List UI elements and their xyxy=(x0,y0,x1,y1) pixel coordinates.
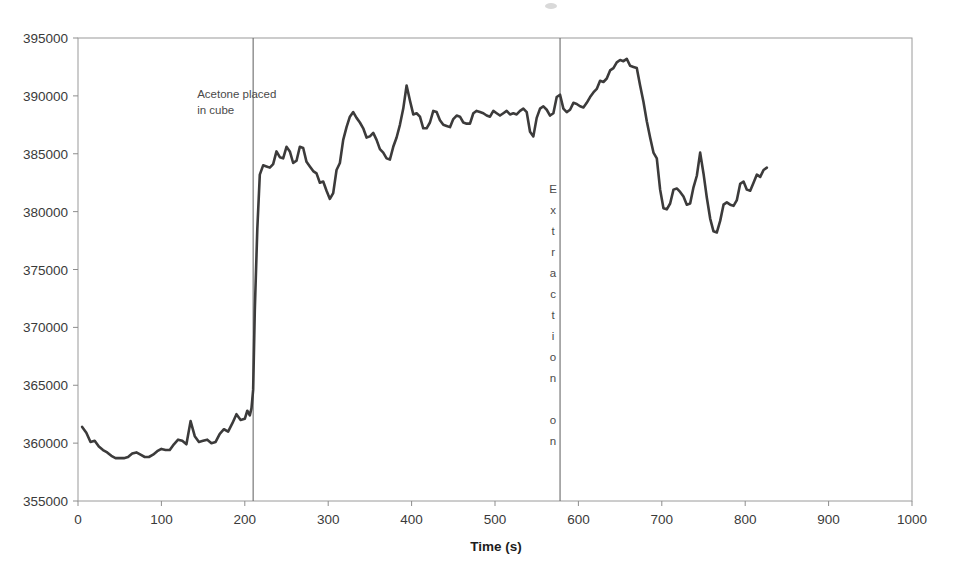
extraction-annotation-char: c xyxy=(550,288,556,300)
y-axis-tick-label: 365000 xyxy=(23,378,68,393)
x-axis-title: Time (s) xyxy=(470,539,522,554)
extraction-annotation-char: x xyxy=(550,204,556,216)
acetone-annotation-line: Acetone placed xyxy=(197,88,276,100)
x-axis-tick-label: 700 xyxy=(651,512,674,527)
chart-background xyxy=(0,0,955,570)
line-chart: 3550003600003650003700003750003800003850… xyxy=(0,0,955,570)
y-axis-tick-label: 380000 xyxy=(23,205,68,220)
y-axis-tick-label: 390000 xyxy=(23,89,68,104)
x-axis-tick-label: 900 xyxy=(817,512,840,527)
y-axis-tick-label: 360000 xyxy=(23,436,68,451)
extraction-annotation-char: i xyxy=(552,330,555,342)
x-axis-tick-label: 0 xyxy=(74,512,82,527)
chart-figure: 3550003600003650003700003750003800003850… xyxy=(0,0,955,570)
extraction-annotation-char: n xyxy=(550,372,556,384)
extraction-annotation-char: E xyxy=(549,183,557,195)
x-axis-tick-label: 300 xyxy=(317,512,340,527)
x-axis-tick-label: 200 xyxy=(234,512,257,527)
x-axis-tick-label: 100 xyxy=(150,512,173,527)
x-axis-tick-label: 600 xyxy=(567,512,590,527)
x-axis-tick-label: 500 xyxy=(484,512,507,527)
extraction-annotation-char: r xyxy=(551,246,555,258)
y-axis-tick-label: 395000 xyxy=(23,31,68,46)
extraction-annotation-char: a xyxy=(550,267,557,279)
x-axis-tick-label: 1000 xyxy=(897,512,927,527)
y-axis-tick-label: 355000 xyxy=(23,494,68,509)
y-axis-tick-label: 385000 xyxy=(23,147,68,162)
y-axis-tick-label: 375000 xyxy=(23,263,68,278)
acetone-annotation-line: in cube xyxy=(197,104,234,116)
extraction-annotation-char: o xyxy=(550,414,556,426)
x-axis-tick-label: 800 xyxy=(734,512,757,527)
extraction-annotation-char: o xyxy=(550,351,556,363)
x-axis-tick-label: 400 xyxy=(400,512,423,527)
y-axis-tick-label: 370000 xyxy=(23,320,68,335)
extraction-annotation-char: n xyxy=(550,435,556,447)
scan-artifact-speck xyxy=(545,3,557,9)
